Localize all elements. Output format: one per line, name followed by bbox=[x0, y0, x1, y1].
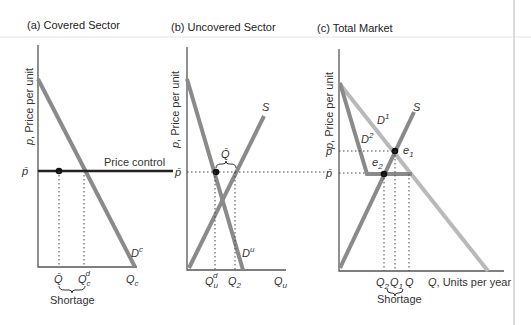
panel-c-q-label: Q bbox=[405, 276, 414, 288]
panel-b-qud-point bbox=[213, 169, 220, 176]
panel-c-e1-label: e1 bbox=[403, 144, 414, 159]
panel-b-demand-label: Du bbox=[242, 245, 255, 259]
panel-c-pbar-label: p̄ bbox=[325, 167, 332, 179]
figure-canvas: (a) Covered Sector p, Price per unit Pri… bbox=[0, 0, 531, 325]
panel-c-supply-curve bbox=[340, 112, 414, 268]
panel-b-y-axis-label: p, Price per unit bbox=[169, 71, 181, 149]
panel-c-y-axis-label: p, Price per unit bbox=[323, 72, 335, 150]
panel-b-title: (b) Uncovered Sector bbox=[171, 21, 276, 33]
panel-c-supply-label: S bbox=[413, 101, 421, 113]
panel-b-qud-label: Qud bbox=[205, 271, 219, 290]
panel-a-pbar-label: p̄ bbox=[21, 165, 28, 177]
panel-b-qbar-label: Q̄ bbox=[221, 148, 230, 160]
panel-a-shortage-brace bbox=[59, 286, 85, 293]
panel-a-demand-curve bbox=[38, 79, 135, 267]
panel-c-q2-label: Q2 bbox=[376, 276, 390, 291]
panel-b-q2-label: Q2 bbox=[228, 275, 242, 290]
price-control-label: Price control bbox=[104, 156, 165, 168]
panel-b-pbar-label: p̄ bbox=[174, 166, 181, 178]
panel-c-e2-label: e2 bbox=[372, 156, 383, 171]
panel-a-shortage-label: Shortage bbox=[50, 294, 95, 306]
panel-a-title: (a) Covered Sector bbox=[27, 19, 120, 31]
panel-c-d2-label: D2 bbox=[361, 131, 374, 145]
panel-c-q1-label: Q1 bbox=[390, 276, 403, 291]
panel-b-qu-label: Qu bbox=[274, 275, 288, 290]
panel-c-x-axis-label: Q, Units per year bbox=[428, 276, 511, 288]
panel-c-p-label: p bbox=[325, 145, 332, 157]
panel-b-qbar-brace bbox=[216, 161, 236, 168]
panel-c-shortage-label: Shortage bbox=[377, 293, 422, 305]
panel-uncovered-sector: (b) Uncovered Sector p, Price per unit S… bbox=[169, 21, 330, 290]
panel-b-axes bbox=[187, 47, 286, 270]
panel-a-qcd-label: Qcd bbox=[78, 269, 91, 288]
panel-a-qbar-label: Q̄ bbox=[54, 273, 63, 285]
panel-covered-sector: (a) Covered Sector p, Price per unit Pri… bbox=[21, 19, 173, 306]
panel-a-qc-label: Qc bbox=[126, 273, 139, 288]
panel-a-demand-label: Dc bbox=[131, 245, 143, 259]
panel-c-title: (c) Total Market bbox=[317, 22, 393, 34]
panel-c-d1-label: D1 bbox=[377, 112, 389, 126]
panel-a-y-axis-label: p, Price per unit bbox=[23, 68, 35, 146]
panel-total-market: (c) Total Market p, Price per unit S D1 … bbox=[317, 22, 511, 305]
panel-b-supply-label: S bbox=[262, 101, 270, 113]
